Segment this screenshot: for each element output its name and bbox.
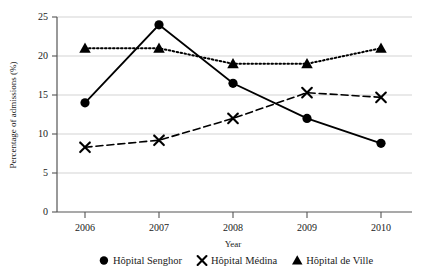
data-point-marker — [154, 20, 163, 29]
y-tick-label-20: 20 — [38, 50, 48, 61]
x-tick-label-2007: 2007 — [149, 222, 169, 233]
data-point-marker — [228, 114, 238, 124]
data-point-marker — [228, 79, 237, 88]
x-tick-label-2010: 2010 — [371, 222, 391, 233]
line-chart-figure: 25 20 15 10 5 0 Percentage of admissions… — [0, 0, 430, 275]
series-3 — [79, 42, 387, 68]
y-axis-title: Percentage of admissions (%) — [8, 61, 18, 168]
x-tick-label-2009: 2009 — [297, 222, 317, 233]
y-tick-label-5: 5 — [43, 167, 48, 178]
y-tick-label-0: 0 — [43, 206, 48, 217]
series-layer — [79, 20, 387, 152]
data-point-marker — [375, 42, 387, 52]
gridlines — [57, 17, 412, 173]
x-marker-icon — [198, 256, 207, 265]
x-tick-label-2008: 2008 — [223, 222, 243, 233]
legend-label-3: Hôpital de Ville — [306, 255, 373, 266]
legend-label-1: Hôpital Senghor — [113, 255, 183, 266]
x-tick-marks — [85, 212, 381, 218]
x-tick-label-2006: 2006 — [75, 222, 95, 233]
data-point-marker — [80, 98, 89, 107]
series-line-2 — [85, 93, 381, 148]
circle-marker-icon — [100, 256, 108, 264]
series-2 — [80, 88, 386, 152]
y-tick-label-10: 10 — [38, 128, 48, 139]
y-tick-marks — [52, 17, 57, 212]
y-tick-label-15: 15 — [38, 89, 48, 100]
x-axis-title: Year — [225, 239, 242, 249]
chart-legend: Hôpital SenghorHôpital MédinaHôpital de … — [100, 255, 374, 266]
y-tick-label-25: 25 — [38, 11, 48, 22]
data-point-marker — [376, 139, 385, 148]
triangle-marker-icon — [292, 255, 303, 264]
legend-label-2: Hôpital Médina — [211, 255, 278, 266]
chart-canvas: 25 20 15 10 5 0 Percentage of admissions… — [0, 0, 430, 275]
series-1 — [80, 20, 385, 148]
data-point-marker — [302, 114, 311, 123]
